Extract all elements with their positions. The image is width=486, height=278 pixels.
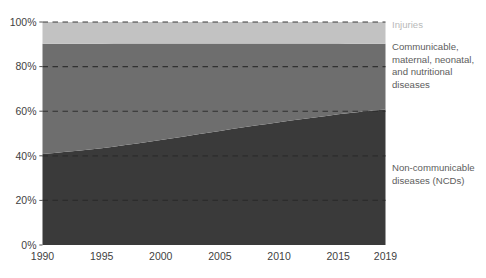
annotation-ncd-line-1: diseases (NCDs) (392, 175, 465, 186)
chart-svg: 0%20%40%60%80%100% 199019952000200520102… (0, 0, 486, 278)
annotation-ncd: Non-communicablediseases (NCDs) (392, 162, 475, 186)
annotation-ncd-line-0: Non-communicable (392, 162, 475, 173)
stacked-area-chart: 0%20%40%60%80%100% 199019952000200520102… (0, 0, 486, 278)
x-tick-label-2000: 2000 (149, 250, 173, 262)
y-tick-label-80: 80% (15, 60, 36, 72)
y-tick-label-0: 0% (21, 239, 36, 251)
annotation-injuries: Injuries (392, 19, 423, 30)
annotation-cmnn-line-0: Communicable, (392, 41, 459, 52)
y-tick-label-20: 20% (15, 194, 36, 206)
y-tick-label-40: 40% (15, 150, 36, 162)
annotation-injuries-line-0: Injuries (392, 19, 423, 30)
x-tick-label-2010: 2010 (267, 250, 291, 262)
x-tick-label-2015: 2015 (327, 250, 351, 262)
annotation-cmnn-line-2: and nutritional (392, 66, 452, 77)
x-tick-label-2005: 2005 (208, 250, 232, 262)
y-tick-label-60: 60% (15, 105, 36, 117)
x-tick-label-2019: 2019 (374, 250, 398, 262)
area-series-injuries (43, 22, 386, 44)
x-tick-label-1990: 1990 (31, 250, 55, 262)
annotation-cmnn-line-1: maternal, neonatal, (392, 54, 474, 65)
annotation-cmnn-line-3: diseases (392, 79, 430, 90)
y-tick-label-100: 100% (10, 16, 37, 28)
area-series-group (43, 22, 386, 245)
x-tick-label-1995: 1995 (90, 250, 114, 262)
